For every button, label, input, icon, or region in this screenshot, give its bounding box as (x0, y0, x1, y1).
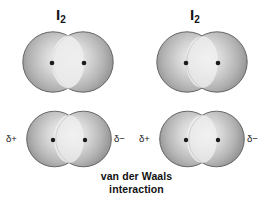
molecule-top-right-spheres (157, 32, 247, 92)
molecule-label-top-right-subscript: 2 (194, 14, 200, 25)
molecule-bottom-left-spheres (27, 111, 112, 167)
molecule-top-right (156, 30, 248, 94)
charge-label-bottom-right-negative: δ− (247, 134, 258, 144)
van-der-waals-diagram: I2 I2 (0, 0, 273, 207)
charge-label-bottom-left-positive: δ+ (6, 134, 17, 144)
figure-caption: van der Waals interaction (0, 170, 273, 196)
caption-line-2: interaction (0, 183, 273, 196)
molecule-bottom-right (159, 110, 245, 168)
caption-line-1: van der Waals (0, 170, 273, 183)
molecule-label-top-left: I2 (56, 7, 66, 25)
molecule-label-top-right: I2 (190, 7, 200, 25)
molecule-top-left (22, 30, 114, 94)
molecule-bottom-right-spheres (160, 111, 245, 167)
molecule-bottom-left (26, 110, 112, 168)
charge-label-bottom-left-negative: δ− (114, 134, 125, 144)
charge-label-bottom-right-positive: δ+ (139, 134, 150, 144)
molecule-label-top-left-subscript: 2 (60, 14, 66, 25)
molecule-top-left-spheres (23, 32, 113, 92)
